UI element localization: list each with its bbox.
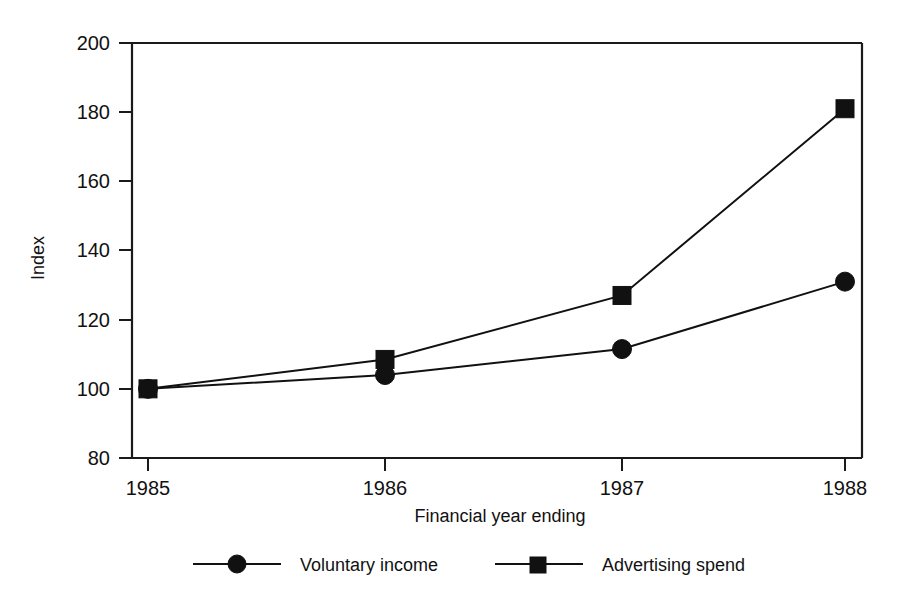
y-tick-label-180: 180	[77, 101, 110, 123]
x-tick-label-1985: 1985	[126, 477, 171, 499]
legend-circle-icon	[228, 555, 246, 573]
data-point-voluntary-income-1987	[613, 340, 632, 359]
data-point-advertising-spend-1986	[376, 350, 394, 368]
legend-label-advertising-spend: Advertising spend	[602, 555, 745, 575]
data-point-voluntary-income-1988	[836, 272, 855, 291]
series-line-voluntary-income	[148, 282, 845, 389]
y-tick-label-100: 100	[77, 378, 110, 400]
y-axis-title: Index	[28, 236, 48, 280]
y-tick-label-140: 140	[77, 239, 110, 261]
x-tick-label-1988: 1988	[823, 477, 868, 499]
series-line-advertising-spend	[148, 109, 845, 389]
y-tick-label-80: 80	[88, 447, 110, 469]
x-axis-title: Financial year ending	[414, 506, 585, 526]
chart-container: 200 180 160 140 120 100 80 1985 1986 198…	[0, 0, 897, 606]
x-tick-label-1986: 1986	[363, 477, 408, 499]
data-point-advertising-spend-1987	[613, 286, 631, 304]
data-point-advertising-spend-1985	[139, 380, 157, 398]
y-tick-label-120: 120	[77, 309, 110, 331]
legend-square-icon	[530, 557, 546, 573]
series-layer	[139, 100, 855, 399]
y-tick-label-200: 200	[77, 32, 110, 54]
legend-label-voluntary-income: Voluntary income	[300, 555, 438, 575]
line-chart: 200 180 160 140 120 100 80 1985 1986 198…	[0, 0, 897, 606]
x-tick-label-1987: 1987	[600, 477, 645, 499]
data-point-advertising-spend-1988	[836, 100, 854, 118]
chart-legend: Voluntary income Advertising spend	[193, 555, 745, 575]
y-tick-label-160: 160	[77, 170, 110, 192]
